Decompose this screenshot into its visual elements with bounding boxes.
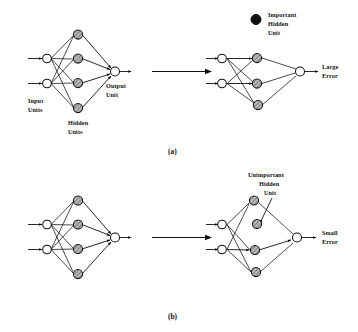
hidden-unit-node xyxy=(253,100,262,109)
legend-label-line1: Important xyxy=(268,11,297,18)
input-unit-node xyxy=(218,54,227,63)
output-unit-node xyxy=(296,67,305,76)
hidden-units-label-line2: Units xyxy=(68,128,83,135)
legend-label-line3: Unit xyxy=(268,29,281,36)
panel-caption-b: (b) xyxy=(168,312,178,321)
hidden-unit-node xyxy=(250,245,259,254)
hidden-unit-node xyxy=(249,196,258,205)
hidden-unit-node xyxy=(73,103,82,112)
neural-network-pruning-figure: Input Units Hidden Units Output Unit Imp… xyxy=(0,0,358,332)
hidden-unit-node xyxy=(73,269,82,278)
hidden-unit-node xyxy=(252,79,261,88)
input-units-label-line2: Units xyxy=(28,106,43,113)
callout-label-line2: Hidden xyxy=(259,180,280,187)
output-unit-label-line2: Unit xyxy=(106,91,119,98)
legend-label-line2: Hidden xyxy=(268,20,289,27)
result-label-line2: Error xyxy=(322,238,338,245)
hidden-unit-node xyxy=(252,53,261,62)
hidden-unit-node xyxy=(73,54,82,63)
result-label-line2: Error xyxy=(322,72,338,79)
input-unit-node xyxy=(218,79,227,88)
hidden-units-label-line1: Hidden xyxy=(68,119,89,126)
hidden-unit-node xyxy=(73,30,82,39)
input-unit-node xyxy=(218,220,227,229)
input-unit-node xyxy=(218,245,227,254)
callout-label-line1: Unimportant xyxy=(248,171,285,178)
hidden-unit-node xyxy=(73,244,82,253)
result-label-line1: Large xyxy=(322,63,338,70)
figure-background xyxy=(0,0,358,332)
unimportant-hidden-unit-node xyxy=(252,219,261,228)
hidden-unit-node xyxy=(73,196,82,205)
input-unit-node xyxy=(43,245,52,254)
hidden-unit-node xyxy=(251,267,260,276)
callout-label-line3: Unit xyxy=(264,189,277,196)
output-unit-label-line1: Output xyxy=(106,82,127,89)
input-unit-node xyxy=(43,54,52,63)
hidden-unit-node xyxy=(73,220,82,229)
important-hidden-unit-icon xyxy=(251,15,261,25)
output-unit-node xyxy=(293,233,302,242)
input-unit-node xyxy=(43,79,52,88)
input-units-label-line1: Input xyxy=(28,97,44,104)
output-unit-node xyxy=(111,67,120,76)
hidden-unit-node xyxy=(73,78,82,87)
input-unit-node xyxy=(43,220,52,229)
panel-caption-a: (a) xyxy=(168,147,177,156)
result-label-line1: Small xyxy=(322,229,338,236)
output-unit-node xyxy=(111,233,120,242)
